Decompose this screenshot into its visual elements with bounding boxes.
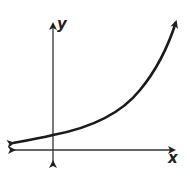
- x-axis-label: x: [167, 149, 179, 167]
- y-axis-label: y: [57, 15, 68, 33]
- exponential-graph: y x: [0, 0, 190, 186]
- exponential-curve: [13, 22, 176, 143]
